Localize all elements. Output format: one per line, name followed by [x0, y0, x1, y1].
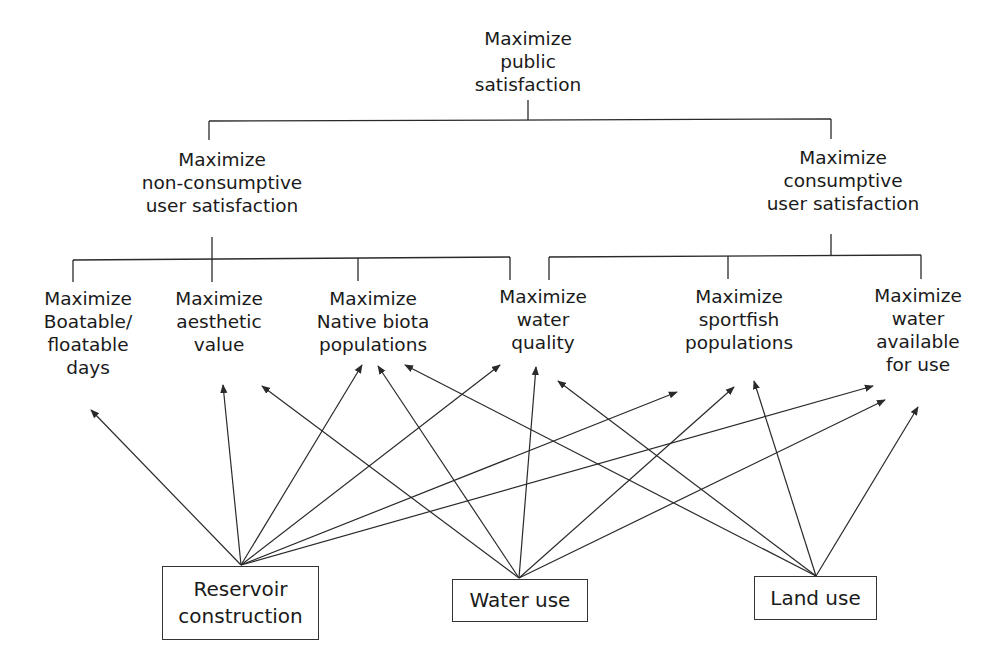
objective-consumptive-user-satisfaction: Maximize consumptive user satisfaction	[767, 146, 920, 215]
objective-native-biota-populations: Maximize Native biota populations	[317, 287, 430, 356]
node-label-line: consumptive	[767, 169, 920, 192]
objectives-hierarchy-diagram: Maximize public satisfaction Maximize no…	[0, 0, 1001, 660]
action-box-land-use: Land use	[754, 576, 877, 620]
node-label-line: floatable	[44, 333, 132, 356]
node-label-line: Boatable/	[44, 310, 132, 333]
node-label-line: Maximize	[142, 148, 303, 171]
influence-arrows	[91, 365, 918, 578]
action-box-reservoir-construction: Reservoir construction	[162, 566, 319, 640]
root-objective-public-satisfaction: Maximize public satisfaction	[475, 27, 581, 96]
node-label-line: Maximize	[874, 284, 962, 307]
node-label-line: user satisfaction	[142, 194, 303, 217]
node-label-line: for use	[874, 353, 962, 376]
node-label-line: Maximize	[499, 285, 587, 308]
node-label-line: water	[499, 308, 587, 331]
node-label-line: value	[175, 333, 263, 356]
node-label-line: days	[44, 356, 132, 379]
box-label-line: Water use	[453, 587, 587, 614]
objective-boatable-floatable-days: Maximize Boatable/ floatable days	[44, 287, 132, 379]
node-label-line: water	[874, 307, 962, 330]
node-label-line: Maximize	[175, 287, 263, 310]
box-label-line: construction	[163, 603, 318, 630]
node-label-line: user satisfaction	[767, 192, 920, 215]
objective-nonconsumptive-user-satisfaction: Maximize non-consumptive user satisfacti…	[142, 148, 303, 217]
objective-water-available-for-use: Maximize water available for use	[874, 284, 962, 376]
node-label-line: Maximize	[475, 27, 581, 50]
node-label-line: satisfaction	[475, 73, 581, 96]
objective-aesthetic-value: Maximize aesthetic value	[175, 287, 263, 356]
objective-sportfish-populations: Maximize sportfish populations	[685, 285, 793, 354]
box-label-line: Land use	[755, 585, 876, 612]
node-label-line: populations	[685, 331, 793, 354]
node-label-line: sportfish	[685, 308, 793, 331]
node-label-line: available	[874, 330, 962, 353]
node-label-line: aesthetic	[175, 310, 263, 333]
objective-water-quality: Maximize water quality	[499, 285, 587, 354]
node-label-line: public	[475, 50, 581, 73]
node-label-line: populations	[317, 333, 430, 356]
node-label-line: non-consumptive	[142, 171, 303, 194]
action-box-water-use: Water use	[452, 579, 588, 622]
node-label-line: Maximize	[685, 285, 793, 308]
node-label-line: Maximize	[44, 287, 132, 310]
node-label-line: Maximize	[767, 146, 920, 169]
node-label-line: Maximize	[317, 287, 430, 310]
box-label-line: Reservoir	[163, 576, 318, 603]
node-label-line: Native biota	[317, 310, 430, 333]
node-label-line: quality	[499, 331, 587, 354]
